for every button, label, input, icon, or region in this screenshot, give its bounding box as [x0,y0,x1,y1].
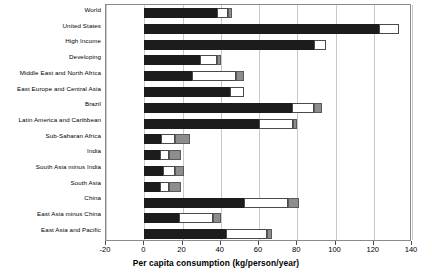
x-tick-label: -20 [90,245,120,255]
bar-segment[interactable] [244,198,288,208]
bar-segment[interactable] [267,229,273,239]
bar-row[interactable] [106,134,190,144]
chart-figure: World United States High Income Developi… [0,0,432,280]
bar-segment[interactable] [144,87,230,97]
bar-segment[interactable] [169,182,180,192]
bar-segment[interactable] [230,87,243,97]
bar-row[interactable] [106,55,221,65]
bar-segment[interactable] [200,55,217,65]
x-tick-label: 0 [128,245,158,255]
bar-segment[interactable] [163,166,174,176]
bar-segment[interactable] [144,166,163,176]
x-axis: -20020406080100120140 [105,241,411,257]
bar-segment[interactable] [175,166,185,176]
bar-segment[interactable] [314,40,325,50]
bar-segment[interactable] [144,8,217,18]
y-tick-label: East Europe and Central Asia [0,85,101,93]
x-tick-label: 140 [396,245,426,255]
x-tick-label: 100 [320,245,350,255]
x-tick-label: 60 [243,245,273,255]
gridline [412,5,413,240]
x-axis-label: Per capita consumption (kg/person/year) [0,258,432,268]
bar-segment[interactable] [144,119,259,129]
x-tick-label: 20 [167,245,197,255]
bar-row[interactable] [106,119,297,129]
y-tick-label: South Asia minus India [0,163,101,171]
bar-segment[interactable] [228,8,232,18]
bar-segment[interactable] [259,119,293,129]
bar-segment[interactable] [288,198,299,208]
bar-segment[interactable] [160,182,170,192]
gridline [374,5,375,240]
bar-segment[interactable] [144,103,291,113]
y-tick-label: World [0,6,101,14]
bar-segment[interactable] [161,134,174,144]
bar-segment[interactable] [379,24,398,34]
bar-row[interactable] [106,198,299,208]
bar-segment[interactable] [169,150,180,160]
y-tick-label: China [0,194,101,202]
bar-segment[interactable] [192,71,236,81]
bar-segment[interactable] [144,213,178,223]
bar-segment[interactable] [144,150,159,160]
y-tick-label: United States [0,22,101,30]
bar-row[interactable] [106,213,221,223]
bar-segment[interactable] [179,213,213,223]
gridline [336,5,337,240]
bar-row[interactable] [106,71,244,81]
bar-segment[interactable] [236,71,244,81]
bar-row[interactable] [106,8,232,18]
bar-segment[interactable] [217,8,228,18]
x-tick-label: 80 [281,245,311,255]
y-tick-label: India [0,147,101,155]
bar-row[interactable] [106,182,181,192]
y-tick-label: Brazil [0,100,101,108]
y-tick-label: East Asia and Pacific [0,226,101,234]
x-tick-label: 40 [205,245,235,255]
bar-segment[interactable] [160,150,170,160]
bar-segment[interactable] [144,55,199,65]
bar-segment[interactable] [144,198,243,208]
y-tick-label: Developing [0,53,101,61]
bar-segment[interactable] [144,40,314,50]
y-tick-label: Sub-Saharan Africa [0,132,101,140]
plot-area [105,4,411,241]
bar-row[interactable] [106,229,272,239]
bar-segment[interactable] [144,182,159,192]
bar-segment[interactable] [175,134,190,144]
x-tick-label: 120 [358,245,388,255]
y-tick-label: Latin America and Caribbean [0,116,101,124]
bar-segment[interactable] [144,71,192,81]
y-axis-category-labels: World United States High Income Developi… [0,5,101,241]
bar-row[interactable] [106,24,399,34]
bar-segment[interactable] [217,55,221,65]
bar-segment[interactable] [213,213,221,223]
bar-row[interactable] [106,166,184,176]
bar-segment[interactable] [293,119,297,129]
bar-row[interactable] [106,103,322,113]
y-tick-label: South Asia [0,179,101,187]
bar-row[interactable] [106,87,244,97]
bar-row[interactable] [106,150,181,160]
bar-segment[interactable] [144,134,161,144]
bar-segment[interactable] [292,103,315,113]
bar-segment[interactable] [314,103,322,113]
bar-row[interactable] [106,40,326,50]
bar-segment[interactable] [144,24,379,34]
bar-segment[interactable] [144,229,226,239]
bar-segment[interactable] [226,229,266,239]
y-tick-label: Middle East and North Africa [0,69,101,77]
y-tick-label: East Asia minus China [0,210,101,218]
y-tick-label: High Income [0,37,101,45]
